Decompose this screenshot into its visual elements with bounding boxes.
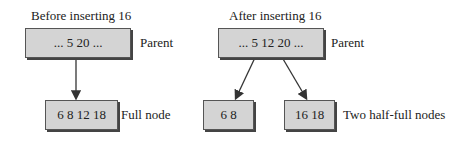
after-parent-label: Parent [331,35,364,51]
after-parent-keys: ... 5 12 20 ... [239,35,304,51]
before-parent-node: ... 5 20 ... [25,28,131,58]
after-title: After inserting 16 [229,8,321,24]
before-title: Before inserting 16 [31,8,131,24]
after-right-child-node: 16 18 [284,100,335,130]
after-left-child-keys: 6 8 [220,107,236,123]
after-right-child-keys: 16 18 [295,107,324,123]
after-parent-node: ... 5 12 20 ... [218,28,324,58]
before-parent-label: Parent [140,35,173,51]
before-child-keys: 6 8 12 18 [57,107,106,123]
after-children-label: Two half-full nodes [343,107,445,123]
after-left-child-node: 6 8 [203,100,254,130]
before-child-label: Full node [121,107,170,123]
before-parent-keys: ... 5 20 ... [54,35,103,51]
before-full-node: 6 8 12 18 [45,100,118,130]
